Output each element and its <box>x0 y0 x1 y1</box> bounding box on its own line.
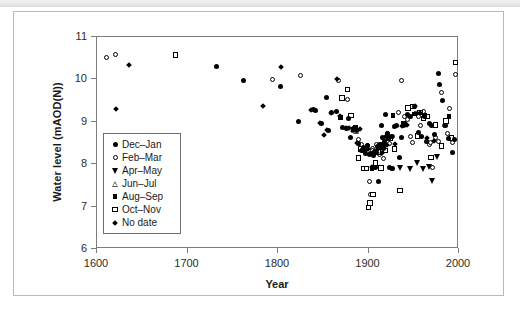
marker-circle-filled <box>437 82 442 87</box>
legend-label: No date <box>122 218 157 228</box>
marker-circle-filled <box>452 137 457 142</box>
marker-circle-filled <box>296 119 301 124</box>
marker-circle-filled <box>334 109 339 114</box>
legend-symbol <box>108 190 122 203</box>
marker-circle-filled <box>344 126 349 131</box>
marker-circle-filled <box>373 165 378 170</box>
legend-label: Apr–May <box>122 166 162 176</box>
marker-circle-filled <box>329 110 334 115</box>
legend-item-diamond-filled[interactable]: No date <box>108 216 177 229</box>
marker-circle-filled <box>450 150 455 155</box>
legend-item-square-filled[interactable]: Aug–Sep <box>108 190 177 203</box>
marker-circle-filled <box>356 141 361 146</box>
legend-item-circle-open[interactable]: Feb–Mar <box>108 151 177 164</box>
marker-circle-filled <box>326 128 331 133</box>
marker-circle-filled <box>432 132 437 137</box>
marker-square-filled <box>113 194 118 199</box>
marker-circle-filled <box>354 128 359 133</box>
legend-symbol <box>108 216 122 229</box>
marker-circle-filled <box>422 114 427 119</box>
marker-circle-filled <box>374 150 379 155</box>
marker-circle-filled <box>346 116 351 121</box>
marker-circle-filled <box>419 134 424 139</box>
marker-triangle-down-filled <box>112 168 118 174</box>
marker-circle-filled <box>443 123 448 128</box>
legend-item-square-open[interactable]: Oct–Nov <box>108 203 177 216</box>
marker-triangle-up-open <box>112 181 118 187</box>
marker-circle-filled <box>381 146 386 151</box>
marker-circle-filled <box>401 123 406 128</box>
marker-circle-open <box>113 155 118 160</box>
marker-circle-filled <box>394 123 399 128</box>
legend-item-triangle-up-open[interactable]: Jun–Jul <box>108 177 177 190</box>
marker-circle-filled <box>436 71 441 76</box>
marker-circle-filled <box>113 142 118 147</box>
marker-circle-filled <box>313 108 318 113</box>
marker-circle-filled <box>324 95 329 100</box>
legend-label: Dec–Jan <box>122 140 161 150</box>
legend-symbol <box>108 151 122 164</box>
legend-symbol <box>108 177 122 190</box>
marker-square-open <box>112 207 118 213</box>
legend-item-circle-filled[interactable]: Dec–Jan <box>108 138 177 151</box>
marker-circle-filled <box>408 114 413 119</box>
marker-circle-filled <box>440 98 445 103</box>
marker-circle-filled <box>376 179 381 184</box>
chart-plot-area: 67891011 16001700180019002000 Water leve… <box>0 0 520 311</box>
marker-circle-filled <box>241 78 246 83</box>
legend-label: Aug–Sep <box>122 192 163 202</box>
marker-circle-filled <box>446 136 451 141</box>
legend-symbol <box>108 138 122 151</box>
marker-circle-filled <box>390 166 395 171</box>
marker-circle-filled <box>348 135 353 140</box>
marker-circle-filled <box>365 143 370 148</box>
marker-circle-filled <box>389 134 394 139</box>
x-axis-label: Year <box>265 278 288 290</box>
legend-symbol <box>108 164 122 177</box>
legend-item-triangle-down-filled[interactable]: Apr–May <box>108 164 177 177</box>
legend-symbol <box>108 203 122 216</box>
marker-circle-filled <box>397 155 402 160</box>
marker-circle-filled <box>319 121 324 126</box>
marker-circle-filled <box>278 84 283 89</box>
chart-legend: Dec–JanFeb–MarApr–MayJun–JulAug–SepOct–N… <box>103 133 181 234</box>
marker-circle-filled <box>429 123 434 128</box>
marker-diamond-filled <box>112 220 118 226</box>
marker-circle-filled <box>379 123 384 128</box>
marker-circle-filled <box>383 112 388 117</box>
legend-label: Jun–Jul <box>122 179 156 189</box>
marker-circle-filled <box>399 135 404 140</box>
y-axis-label: Water level (mAOD(N)) <box>51 82 63 202</box>
legend-label: Feb–Mar <box>122 153 162 163</box>
series-circle-filled <box>0 0 520 311</box>
marker-circle-filled <box>412 104 417 109</box>
legend-label: Oct–Nov <box>122 205 161 215</box>
marker-circle-filled <box>214 64 219 69</box>
marker-circle-filled <box>424 139 429 144</box>
